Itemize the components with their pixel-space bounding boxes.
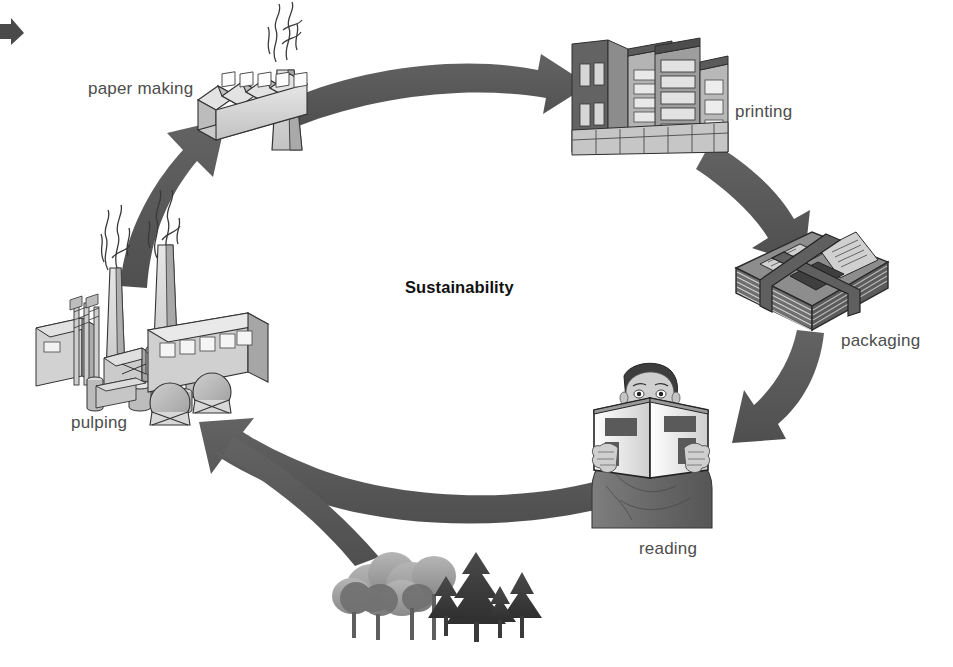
node-label-reading: reading [639,540,697,557]
cycle-illustration [0,0,953,667]
arrow-incoming-top-left-icon [0,18,24,45]
arrow-packaging-to-reading-icon [732,330,824,443]
arrow-paper-making-to-printing-icon [288,54,589,127]
node-label-printing: printing [735,103,792,120]
node-label-pulping: pulping [71,414,127,431]
printing-plant-building-icon [572,38,728,155]
trees-forest-icon [332,552,542,642]
node-label-packaging: packaging [841,332,920,349]
paper-mill-factory-icon [198,2,307,150]
diagram-center-title: Sustainability [405,279,514,296]
node-label-paper-making: paper making [88,80,193,97]
diagram-canvas: paper making printing packaging reading … [0,0,953,667]
person-reading-book-icon [592,363,712,528]
